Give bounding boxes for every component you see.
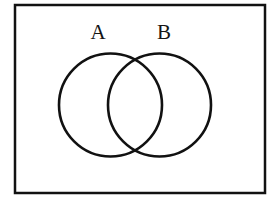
venn-diagram-canvas <box>0 0 277 208</box>
set-b-label: B <box>144 22 184 43</box>
set-a-label: A <box>78 22 118 43</box>
venn-diagram-figure: A B <box>0 0 277 208</box>
set-b-circle <box>108 54 211 157</box>
set-a-circle <box>59 54 162 157</box>
universe-rectangle <box>15 5 265 193</box>
